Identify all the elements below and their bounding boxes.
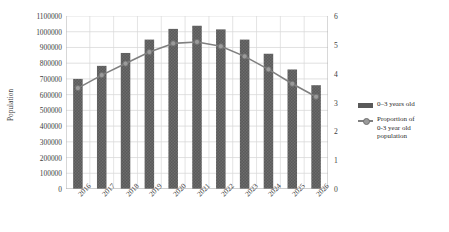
y-axis-left-tick: 800000: [40, 59, 62, 68]
line-marker: [147, 49, 152, 54]
plot-area: [66, 16, 328, 189]
legend-line-line-0: Proportion of: [377, 115, 415, 123]
y-axis-left-tick: 500000: [40, 106, 62, 115]
bar: [145, 40, 155, 189]
legend-item-bar-label: 0–3 years old: [377, 100, 415, 108]
legend-item-line[interactable]: Proportion of 0-3 year old population: [358, 115, 448, 140]
bar: [311, 85, 321, 189]
legend-line-marker-icon: [363, 118, 370, 125]
bar: [168, 29, 178, 189]
y-axis-left-tick: 400000: [40, 122, 62, 131]
legend-item-bar[interactable]: 0–3 years old: [358, 100, 448, 108]
y-axis-left-tick: 1000000: [36, 27, 62, 36]
y-axis-left-tick: 1100000: [36, 12, 62, 21]
bar: [97, 66, 107, 189]
y-axis-right-ticks: 0123456: [330, 16, 348, 189]
y-axis-left-tick: 900000: [40, 43, 62, 52]
line-marker: [242, 54, 247, 59]
bar: [240, 40, 250, 189]
y-axis-right-tick: 0: [334, 185, 338, 194]
bar: [73, 79, 83, 189]
y-axis-left-tick: 300000: [40, 137, 62, 146]
legend-item-line-label: Proportion of 0-3 year old population: [377, 115, 415, 140]
y-axis-right-tick: 1: [334, 156, 338, 165]
line-marker: [313, 94, 318, 99]
legend-bar-line-0: 0–3 years old: [377, 100, 415, 108]
chart-legend: 0–3 years old Proportion of 0-3 year old…: [358, 100, 448, 148]
y-axis-right-tick: 5: [334, 40, 338, 49]
line-marker: [218, 44, 223, 49]
y-axis-left-tick: 100000: [40, 169, 62, 178]
line-marker: [290, 81, 295, 86]
line-marker: [266, 67, 271, 72]
y-axis-left-ticks: 0100000200000300000400000500000600000700…: [16, 16, 64, 189]
y-axis-left-tick: 0: [58, 185, 62, 194]
bar: [121, 53, 131, 189]
line-marker: [171, 41, 176, 46]
line-marker: [99, 73, 104, 78]
bar: [264, 54, 274, 189]
line-marker: [123, 61, 128, 66]
legend-bar-swatch-icon: [358, 103, 373, 108]
y-axis-right-tick: 6: [334, 12, 338, 21]
chart-svg: [66, 16, 328, 189]
y-axis-right-tick: 4: [334, 69, 338, 78]
chart-container: Population 01000002000003000004000005000…: [0, 0, 449, 232]
bar: [288, 69, 298, 189]
bar: [216, 29, 226, 189]
y-axis-right-tick: 2: [334, 127, 338, 136]
legend-line-line-1: 0-3 year old: [377, 124, 415, 132]
line-marker: [75, 85, 80, 90]
y-axis-left-tick: 600000: [40, 90, 62, 99]
legend-line-line-2: population: [377, 132, 415, 140]
legend-line-swatch-icon: [358, 116, 373, 125]
x-axis-labels: 2016201720182019202020212022202320242025…: [66, 190, 328, 230]
y-axis-title-label: Population: [7, 89, 15, 121]
line-marker: [194, 39, 199, 44]
y-axis-right-tick: 3: [334, 98, 338, 107]
y-axis-left-tick: 200000: [40, 153, 62, 162]
bar: [192, 26, 202, 189]
y-axis-left-tick: 700000: [40, 74, 62, 83]
